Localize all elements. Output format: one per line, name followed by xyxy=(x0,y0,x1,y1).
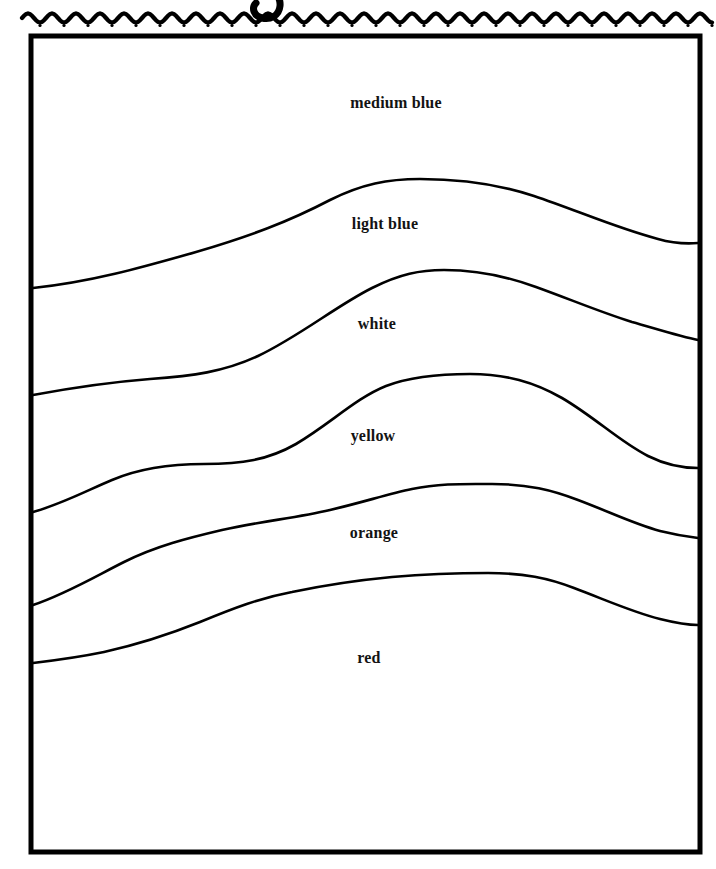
worksheet-page: medium blue light blue white yellow oran… xyxy=(0,0,716,869)
wavy-rule-dot xyxy=(206,24,209,27)
wavy-rule-dot xyxy=(326,24,329,27)
wavy-rule-dot xyxy=(110,24,113,27)
wavy-rule-dot xyxy=(86,24,89,27)
band-label-red: red xyxy=(357,650,380,666)
wavy-rule-dot xyxy=(158,24,161,27)
wavy-rule-dot xyxy=(254,24,257,27)
wavy-rule-dot xyxy=(302,24,305,27)
wavy-rule-dot xyxy=(710,24,713,27)
wavy-rule-dot xyxy=(542,24,545,27)
wavy-rule-dot xyxy=(350,24,353,27)
band-label-white: white xyxy=(358,316,396,332)
wavy-rule-dot xyxy=(182,24,185,27)
wavy-rule-dot xyxy=(518,24,521,27)
wavy-rule-dot xyxy=(134,24,137,27)
wavy-rule-dot xyxy=(494,24,497,27)
wavy-rule-dot xyxy=(470,24,473,27)
curve-yellow-orange xyxy=(33,484,698,605)
wavy-rule-dot xyxy=(614,24,617,27)
wavy-rule-dot xyxy=(38,24,41,27)
wavy-rule-dot xyxy=(422,24,425,27)
wavy-rule-dot xyxy=(566,24,569,27)
curve-light-blue-white xyxy=(33,270,698,395)
wavy-rule-dot xyxy=(398,24,401,27)
picture-frame xyxy=(31,36,700,852)
wavy-rule-dot xyxy=(446,24,449,27)
wavy-rule-dot xyxy=(278,24,281,27)
band-label-orange: orange xyxy=(350,525,398,541)
wavy-rule-dot xyxy=(686,24,689,27)
wavy-rule xyxy=(22,14,714,28)
band-label-medium-blue: medium blue xyxy=(350,95,442,111)
band-label-light-blue: light blue xyxy=(352,216,418,232)
wavy-rule-dot xyxy=(374,24,377,27)
band-boundary-curves xyxy=(33,179,698,663)
wavy-rule-dot xyxy=(662,24,665,27)
wavy-rule-dot xyxy=(638,24,641,27)
wavy-rule-dot xyxy=(590,24,593,27)
curve-medium-blue-light-blue xyxy=(33,179,698,288)
wavy-rule-dot xyxy=(62,24,65,27)
band-label-yellow: yellow xyxy=(351,428,396,444)
wavy-rule-dot xyxy=(230,24,233,27)
